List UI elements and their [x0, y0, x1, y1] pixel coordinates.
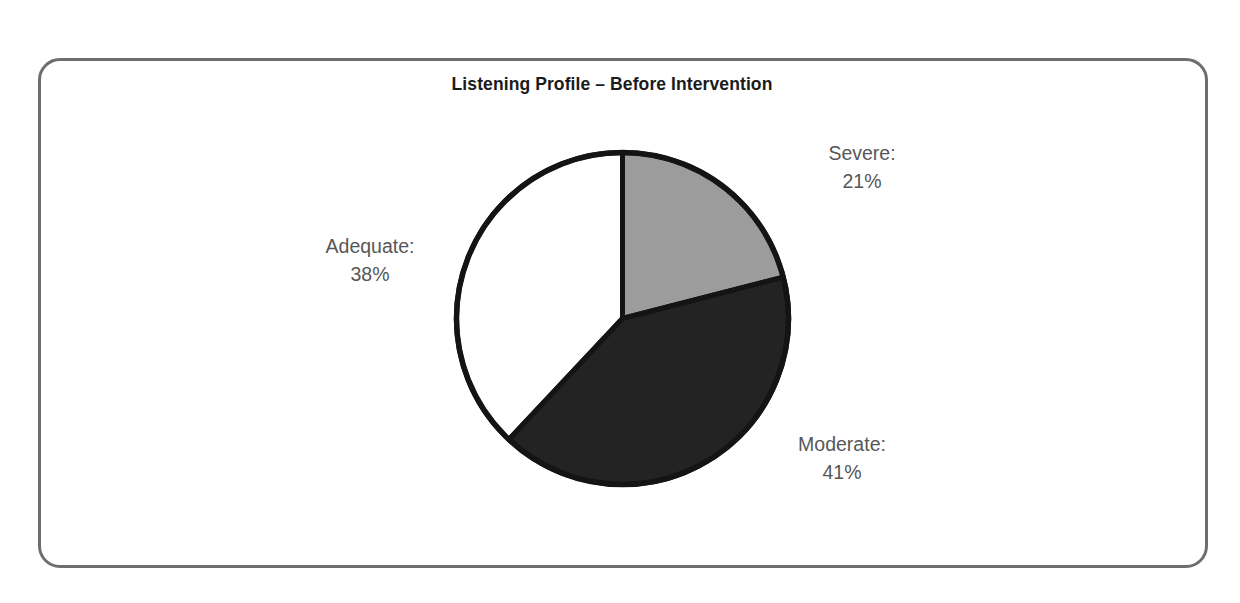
pie-label-severe-name: Severe:	[742, 140, 982, 168]
pie-label-severe: Severe: 21%	[742, 140, 982, 195]
pie-label-moderate: Moderate: 41%	[722, 431, 962, 486]
pie-label-adequate: Adequate: 38%	[250, 233, 490, 288]
page-title: Listening Profile – Before Intervention	[0, 74, 1224, 95]
chart-canvas: Listening Profile – Before Intervention …	[0, 0, 1240, 603]
pie-label-adequate-name: Adequate:	[250, 233, 490, 261]
pie-label-severe-value: 21%	[742, 168, 982, 196]
pie-label-moderate-name: Moderate:	[722, 431, 962, 459]
pie-label-adequate-value: 38%	[250, 261, 490, 289]
pie-label-moderate-value: 41%	[722, 459, 962, 487]
